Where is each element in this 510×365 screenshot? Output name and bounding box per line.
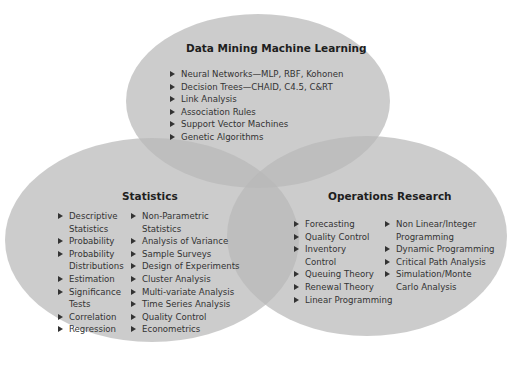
list-item: Sample Surveys: [131, 248, 246, 261]
list-item: Genetic Algorithms: [170, 131, 370, 144]
list-item: Design of Experiments: [131, 260, 246, 273]
bullet-triangle-icon: [170, 109, 175, 115]
bullet-triangle-icon: [131, 238, 136, 244]
bullet-triangle-icon: [385, 259, 390, 265]
bullet-triangle-icon: [170, 134, 175, 140]
list-item: Time Series Analysis: [131, 298, 246, 311]
bullet-triangle-icon: [131, 276, 136, 282]
list-item: Decision Trees—CHAID, C4.5, C&RT: [170, 81, 370, 94]
list-item: Estimation: [58, 273, 128, 286]
list-item: Correlation: [58, 311, 128, 324]
bullet-triangle-icon: [58, 251, 63, 257]
bullet-triangle-icon: [131, 326, 136, 332]
list-item: Non Linear/Integer Programming: [385, 218, 490, 243]
bullet-triangle-icon: [58, 238, 63, 244]
bullet-triangle-icon: [385, 221, 390, 227]
data-mining-list: Neural Networks—MLP, RBF, Kohonen Decisi…: [170, 68, 370, 144]
statistics-title: Statistics: [122, 190, 178, 202]
list-item: Link Analysis: [170, 93, 370, 106]
list-item: Inventory Control: [294, 243, 376, 268]
bullet-triangle-icon: [385, 246, 390, 252]
statistics-list-col2: Non-Parametric Statistics Analysis of Va…: [131, 210, 246, 336]
bullet-triangle-icon: [58, 276, 63, 282]
bullet-triangle-icon: [131, 301, 136, 307]
list-item: Linear Programming: [294, 294, 376, 307]
list-item: Non-Parametric Statistics: [131, 210, 246, 235]
list-item: Regression: [58, 323, 128, 336]
list-item: Significance Tests: [58, 286, 128, 311]
list-item: Critical Path Analysis: [385, 256, 490, 269]
data-mining-title: Data Mining Machine Learning: [170, 42, 370, 54]
bullet-triangle-icon: [294, 234, 299, 240]
list-item: Probability Distributions: [58, 248, 128, 273]
bullet-triangle-icon: [58, 289, 63, 295]
bullet-triangle-icon: [131, 314, 136, 320]
bullet-triangle-icon: [131, 263, 136, 269]
bullet-triangle-icon: [385, 271, 390, 277]
operations-research-title: Operations Research: [328, 190, 452, 202]
list-item: Queuing Theory: [294, 268, 376, 281]
list-item: Neural Networks—MLP, RBF, Kohonen: [170, 68, 370, 81]
bullet-triangle-icon: [131, 251, 136, 257]
list-item: Analysis of Variance: [131, 235, 246, 248]
list-item: Dynamic Programming: [385, 243, 490, 256]
bullet-triangle-icon: [294, 271, 299, 277]
bullet-triangle-icon: [170, 71, 175, 77]
statistics-list-col1: Descriptive Statistics Probability Proba…: [58, 210, 128, 336]
bullet-triangle-icon: [131, 289, 136, 295]
operations-research-list-col1: Forecasting Quality Control Inventory Co…: [294, 218, 376, 306]
list-item: Forecasting: [294, 218, 376, 231]
list-item: Probability: [58, 235, 128, 248]
operations-research-list-col2: Non Linear/Integer Programming Dynamic P…: [385, 218, 490, 294]
bullet-triangle-icon: [170, 96, 175, 102]
list-item: Quality Control: [131, 311, 246, 324]
bullet-triangle-icon: [294, 246, 299, 252]
list-item: Cluster Analysis: [131, 273, 246, 286]
data-mining-section: Data Mining Machine Learning Neural Netw…: [170, 42, 370, 144]
list-item: Descriptive Statistics: [58, 210, 128, 235]
bullet-triangle-icon: [294, 297, 299, 303]
bullet-triangle-icon: [131, 213, 136, 219]
bullet-triangle-icon: [294, 284, 299, 290]
list-item: Simulation/Monte Carlo Analysis: [385, 268, 490, 293]
list-item: Econometrics: [131, 323, 246, 336]
list-item: Renewal Theory: [294, 281, 376, 294]
bullet-triangle-icon: [170, 84, 175, 90]
list-item: Association Rules: [170, 106, 370, 119]
bullet-triangle-icon: [58, 326, 63, 332]
bullet-triangle-icon: [170, 121, 175, 127]
list-item: Quality Control: [294, 231, 376, 244]
bullet-triangle-icon: [58, 213, 63, 219]
bullet-triangle-icon: [294, 221, 299, 227]
list-item: Multi-variate Analysis: [131, 286, 246, 299]
bullet-triangle-icon: [58, 314, 63, 320]
list-item: Support Vector Machines: [170, 118, 370, 131]
